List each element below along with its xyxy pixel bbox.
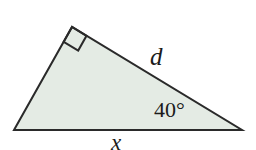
triangle-shape	[14, 27, 242, 130]
angle-label-40-degrees: 40°	[154, 99, 185, 121]
triangle-svg	[0, 0, 256, 150]
side-label-d: d	[150, 44, 163, 69]
side-label-x: x	[111, 131, 121, 150]
geometry-figure: d 40° x	[0, 0, 256, 150]
